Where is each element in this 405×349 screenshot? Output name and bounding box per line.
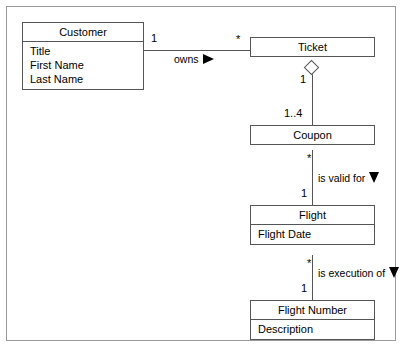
multiplicity-coupon-valid-end: * [307,152,311,164]
diagram-frame: Customer Title First Name Last Name Tick… [6,6,396,341]
multiplicity-ticket-end: * [236,33,240,45]
class-name-flight-number: Flight Number [251,301,374,319]
association-label-owns: owns [174,53,214,65]
class-name-flight: Flight [251,206,374,224]
navigation-triangle-right-icon [203,54,214,64]
association-label-is-execution-of: is execution of [318,267,399,279]
association-line-coupon-flight [312,150,313,205]
class-box-flight-number[interactable]: Flight Number Description [250,300,375,340]
multiplicity-ticket-aggregation-end: 1 [300,73,306,85]
attribute-flight-flight-date: Flight Date [251,227,374,241]
class-box-coupon[interactable]: Coupon [250,125,375,145]
association-label-is-execution-of-text: is execution of [318,267,385,279]
multiplicity-customer-end: 1 [151,32,157,44]
class-box-flight[interactable]: Flight Flight Date [250,205,375,245]
multiplicity-coupon-aggregation-end: 1..4 [284,107,302,119]
attribute-customer-last-name: Last Name [23,72,143,86]
attribute-compartment-customer: Title First Name Last Name [23,41,143,89]
attribute-customer-first-name: First Name [23,58,143,72]
navigation-triangle-down-icon [369,172,379,183]
class-name-ticket: Ticket [251,38,374,56]
association-label-owns-text: owns [174,53,199,65]
diagram-canvas: Customer Title First Name Last Name Tick… [0,0,405,349]
multiplicity-flight-execution-end: * [307,257,311,269]
attribute-compartment-flight-number: Description [251,319,374,339]
association-line-flight-flightnumber [312,255,313,300]
class-box-customer[interactable]: Customer Title First Name Last Name [22,22,144,90]
association-label-is-valid-for-text: is valid for [318,172,365,184]
navigation-triangle-down-icon [389,267,399,278]
class-name-customer: Customer [23,23,143,41]
class-box-ticket[interactable]: Ticket [250,37,375,57]
attribute-customer-title: Title [23,44,143,58]
association-label-is-valid-for: is valid for [318,172,379,184]
association-line-customer-ticket [144,50,250,51]
class-name-coupon: Coupon [251,126,374,144]
attribute-flight-number-description: Description [251,322,374,336]
multiplicity-flight-number-end: 1 [301,282,307,294]
attribute-compartment-flight: Flight Date [251,224,374,244]
multiplicity-flight-valid-end: 1 [301,187,307,199]
